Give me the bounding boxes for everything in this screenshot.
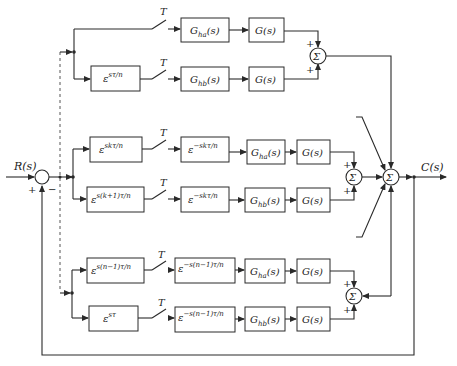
plus-sign: + bbox=[343, 159, 351, 170]
error-plus-sign: + bbox=[28, 184, 36, 195]
sampler-label: T bbox=[158, 249, 166, 260]
wire-to-main-sum bbox=[326, 56, 391, 168]
input-label: R(s) bbox=[13, 160, 37, 173]
plant-block-label: G(s) bbox=[302, 266, 323, 277]
output-label: C(s) bbox=[421, 161, 444, 174]
sampler-switch bbox=[152, 20, 166, 29]
sum-symbol: Σ bbox=[348, 172, 357, 183]
sum-symbol: Σ bbox=[348, 291, 357, 302]
branch-pair-k: εskτ/n T ε−skτ/n Gha(s) G(s) εs(k+1)τ/n … bbox=[73, 127, 382, 212]
plant-block-label: G(s) bbox=[302, 195, 323, 206]
ellipsis-input-lower bbox=[356, 184, 385, 237]
plus-sign: + bbox=[343, 278, 351, 289]
plus-sign: + bbox=[306, 38, 314, 49]
sampler-switch bbox=[152, 190, 166, 199]
plant-block-label: G(s) bbox=[302, 314, 323, 325]
sampler-switch bbox=[152, 70, 166, 79]
plant-block-label: G(s) bbox=[302, 147, 323, 158]
sum-symbol: Σ bbox=[312, 51, 321, 62]
plant-block-label: G(s) bbox=[255, 25, 276, 36]
ellipsis-input-upper bbox=[356, 117, 385, 170]
error-minus-sign: − bbox=[48, 184, 56, 195]
plus-sign: + bbox=[343, 185, 351, 196]
block-diagram: R(s) + − T Gha(s) G(s) εs bbox=[0, 0, 457, 366]
plant-block-label: G(s) bbox=[255, 74, 276, 85]
sampler-label: T bbox=[160, 177, 168, 188]
sampler-switch bbox=[152, 140, 166, 149]
sampler-label: T bbox=[160, 127, 168, 138]
plus-sign: + bbox=[343, 304, 351, 315]
sampler-label: T bbox=[160, 57, 168, 68]
sampler-switch bbox=[152, 261, 166, 270]
sampler-switch bbox=[152, 309, 166, 318]
sampler-label: T bbox=[160, 6, 168, 17]
input-section: R(s) + − bbox=[6, 160, 75, 195]
sum-symbol: Σ bbox=[385, 172, 394, 183]
error-summing-junction bbox=[35, 170, 49, 184]
sampler-label: T bbox=[158, 297, 166, 308]
plus-sign: + bbox=[306, 64, 314, 75]
